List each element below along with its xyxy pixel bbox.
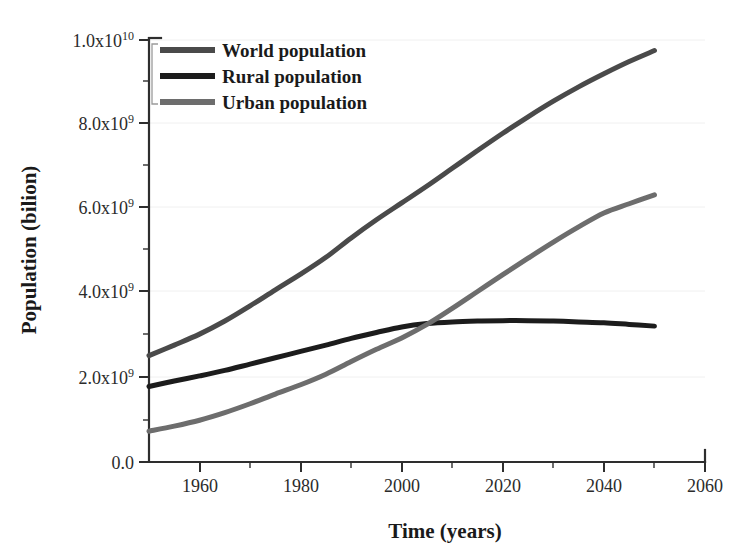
legend-label-rural: Rural population bbox=[222, 66, 362, 87]
chart-page: 1.0x1010 8.0x109 6.0x109 4.0x109 2.0x109… bbox=[0, 0, 736, 558]
legend-label-world: World population bbox=[222, 40, 367, 61]
legend-item-rural-population[interactable]: Rural population bbox=[160, 66, 362, 87]
legend: World population Rural population Urban … bbox=[152, 40, 368, 113]
x-tick-label-2060: 2060 bbox=[687, 476, 723, 496]
y-tick-label-1e10: 1.0x1010 bbox=[73, 29, 135, 51]
x-tick-label-2020: 2020 bbox=[485, 476, 521, 496]
x-tick-label-1960: 1960 bbox=[182, 476, 218, 496]
population-line-chart: 1.0x1010 8.0x109 6.0x109 4.0x109 2.0x109… bbox=[0, 0, 736, 558]
y-tick-label-4e9: 4.0x109 bbox=[79, 280, 135, 302]
legend-item-world-population[interactable]: World population bbox=[160, 40, 367, 61]
y-tick-label-8e9: 8.0x109 bbox=[79, 112, 135, 134]
y-tick-label-6e9: 6.0x109 bbox=[79, 196, 135, 218]
x-tick-label-1980: 1980 bbox=[283, 476, 319, 496]
legend-item-urban-population[interactable]: Urban population bbox=[160, 92, 368, 113]
legend-bracket bbox=[152, 44, 158, 104]
y-tick-label-0: 0.0 bbox=[112, 453, 135, 473]
y-axis-title: Population (bilion) bbox=[17, 166, 41, 335]
x-axis-tick-labels: 1960 1980 2000 2020 2040 2060 bbox=[182, 476, 723, 496]
x-tick-label-2000: 2000 bbox=[384, 476, 420, 496]
y-axis-major-ticks bbox=[139, 40, 149, 462]
y-tick-label-2e9: 2.0x109 bbox=[79, 366, 135, 388]
legend-label-urban: Urban population bbox=[222, 92, 368, 113]
x-tick-label-2040: 2040 bbox=[586, 476, 622, 496]
y-axis-tick-labels: 1.0x1010 8.0x109 6.0x109 4.0x109 2.0x109… bbox=[73, 29, 135, 473]
series-line-urban-population bbox=[149, 195, 654, 431]
x-axis-title: Time (years) bbox=[388, 519, 501, 543]
